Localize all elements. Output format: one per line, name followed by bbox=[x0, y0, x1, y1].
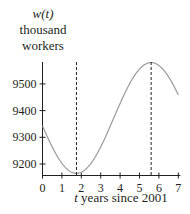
y-tick-label: 9500 bbox=[13, 77, 37, 91]
y-tick-label: 9300 bbox=[13, 130, 37, 144]
x-axis-label: t years since 2001 bbox=[52, 190, 190, 206]
x-axis-description: years since 2001 bbox=[78, 190, 168, 205]
y-tick-label: 9400 bbox=[13, 104, 37, 118]
chart-container: w(t) thousand workers 012345679200930094… bbox=[0, 0, 190, 214]
x-tick-label: 0 bbox=[40, 181, 46, 195]
w-of-t-curve bbox=[43, 63, 179, 174]
plot-area: 012345679200930094009500 bbox=[0, 0, 190, 214]
y-tick-label: 9200 bbox=[13, 157, 37, 171]
